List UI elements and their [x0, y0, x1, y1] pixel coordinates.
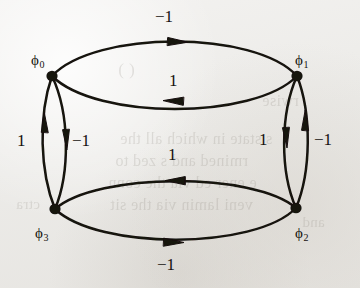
edge-path-right-outer: [296, 76, 308, 208]
node-phi0[interactable]: [46, 71, 57, 81]
node-label-phi1: ϕ1: [295, 53, 308, 68]
edge-weight-left-inner: −1: [72, 132, 90, 149]
node-label-phi3-symbol: ϕ: [35, 225, 43, 241]
edge-weight-right-inner: 1: [259, 131, 268, 148]
edge-path-bottom-inner: [55, 181, 296, 209]
node-phi2[interactable]: [290, 203, 301, 213]
node-label-phi3: ϕ3: [35, 226, 48, 241]
edge-weight-left-outer: 1: [17, 132, 26, 149]
edge-weight-bottom-inner: 1: [168, 146, 177, 163]
edge-path-left-outer: [43, 76, 55, 209]
node-phi3[interactable]: [49, 204, 60, 214]
edge-weight-top-inner: 1: [169, 72, 178, 89]
node-label-phi0-symbol: ϕ: [31, 52, 39, 68]
edge-path-left-inner: [52, 76, 66, 209]
arrowhead-left-outer: [41, 112, 48, 133]
node-label-phi3-subscript: 3: [43, 232, 48, 243]
node-label-phi1-subscript: 1: [303, 59, 308, 70]
edge-weight-right-outer: −1: [314, 131, 332, 148]
node-label-phi2: ϕ2: [295, 226, 308, 241]
arrowhead-left-inner: [63, 130, 70, 150]
graph-figure: ( )rwises state in which all thermined a…: [0, 0, 360, 288]
edge-weight-bottom-outer: −1: [157, 256, 175, 273]
graph-canvas: [0, 0, 360, 288]
node-label-phi2-subscript: 2: [303, 232, 308, 243]
node-label-phi0-subscript: 0: [39, 59, 44, 70]
arrowhead-top-outer: [168, 38, 189, 46]
node-label-phi0: ϕ0: [31, 53, 44, 68]
edge-path-bottom-outer: [55, 208, 296, 240]
edge-weight-top-outer: −1: [155, 8, 173, 25]
node-label-phi1-symbol: ϕ: [295, 52, 303, 68]
arrowhead-bottom-inner: [165, 177, 185, 185]
arrowhead-top-inner: [163, 97, 184, 105]
node-label-phi2-symbol: ϕ: [295, 225, 303, 241]
node-phi1[interactable]: [291, 71, 302, 81]
